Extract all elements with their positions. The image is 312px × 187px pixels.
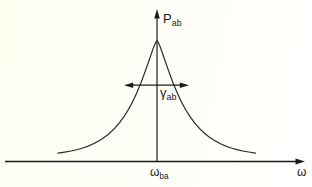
x-axis-center-label-subscript: ba	[159, 172, 168, 181]
y-axis-label-base: P	[163, 11, 172, 26]
x-axis	[5, 159, 305, 165]
fwhm-label-subscript: ab	[167, 92, 177, 102]
x-axis-center-label-base: ω	[150, 165, 159, 179]
lineshape-figure: Pab γab ωba ω	[0, 0, 312, 187]
y-axis-label-subscript: ab	[172, 18, 182, 28]
x-axis-label-base: ω	[297, 165, 306, 179]
fwhm-label: γab	[160, 86, 177, 99]
y-axis-arrowhead-icon	[154, 9, 160, 19]
fwhm-arrowhead-right-icon	[180, 83, 189, 88]
fwhm-arrowhead-left-icon	[124, 83, 133, 88]
x-axis-center-label: ωba	[150, 166, 169, 178]
x-axis-label: ω	[297, 166, 306, 178]
y-axis-label: Pab	[163, 12, 182, 25]
fwhm-label-base: γ	[160, 85, 167, 100]
plot-canvas	[0, 0, 312, 187]
x-axis-arrowhead-icon	[296, 159, 306, 165]
